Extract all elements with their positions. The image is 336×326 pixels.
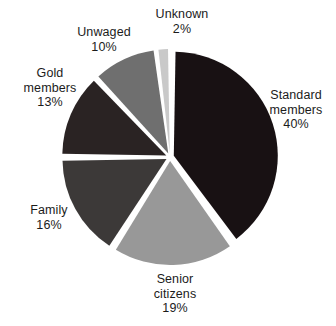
slice-label-gold-members: Gold members 13% (6, 66, 94, 110)
slice-label-unwaged: Unwaged 10% (62, 25, 146, 54)
pie-chart-page: Standard members 40% Senior citizens 19%… (0, 0, 336, 326)
pie-slices-group (62, 49, 277, 265)
slice-label-family: Family 16% (8, 203, 90, 232)
slice-label-senior-citizens: Senior citizens 19% (124, 272, 226, 316)
slice-label-standard-members: Standard members 40% (256, 88, 336, 132)
slice-label-unknown: Unknown 2% (136, 7, 228, 36)
